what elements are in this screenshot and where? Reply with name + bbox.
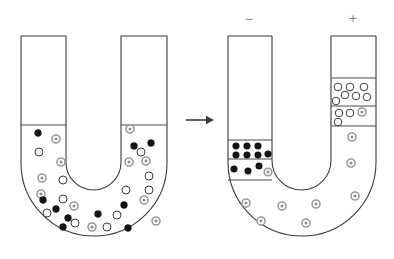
particle-black-dot xyxy=(231,166,238,173)
electrode-label-negative: − xyxy=(245,11,253,27)
particle-white-circle xyxy=(335,109,343,117)
particle-gray xyxy=(264,168,272,176)
particle-gray-core xyxy=(128,127,131,130)
diagram-canvas: −+ xyxy=(0,0,394,259)
particle-white xyxy=(334,118,342,126)
particle-black xyxy=(233,143,240,150)
particle-black-dot xyxy=(35,130,42,137)
particle-white-circle xyxy=(145,172,153,180)
particle-white xyxy=(341,91,349,99)
particle-black xyxy=(256,163,263,170)
particle-gray-core xyxy=(314,202,317,205)
particle-white xyxy=(71,219,79,227)
particle-gray xyxy=(57,158,65,166)
particle-white xyxy=(334,83,342,91)
particle-gray-core xyxy=(267,171,270,174)
particle-gray xyxy=(348,133,356,141)
particle-black-dot xyxy=(233,152,240,159)
particle-gray xyxy=(278,202,286,210)
particle-black-dot xyxy=(244,152,251,159)
process-arrow xyxy=(186,116,214,124)
particle-gray-core xyxy=(127,160,130,163)
particle-gray xyxy=(152,217,160,225)
particle-gray xyxy=(125,158,133,166)
particle-white-circle xyxy=(59,195,67,203)
particle-white xyxy=(122,186,130,194)
particle-gray-core xyxy=(54,137,57,140)
electrophoresis-diagram: −+ xyxy=(0,0,394,259)
particle-black xyxy=(131,143,138,150)
particle-black-dot xyxy=(125,225,132,232)
particle-gray xyxy=(70,202,78,210)
particle-gray xyxy=(302,219,310,227)
particle-black xyxy=(35,130,42,137)
particle-white-circle xyxy=(137,148,145,156)
particle-gray xyxy=(358,108,366,116)
particle-black xyxy=(60,224,67,231)
particle-black xyxy=(245,168,252,175)
particle-white-circle xyxy=(59,176,67,184)
particle-gray xyxy=(257,217,265,225)
particle-white xyxy=(59,195,67,203)
particle-white-circle xyxy=(334,118,342,126)
particle-gray-core xyxy=(59,160,62,163)
particle-black xyxy=(231,166,238,173)
particle-white xyxy=(103,223,111,231)
particle-white xyxy=(137,148,145,156)
particle-gray-core xyxy=(39,192,42,195)
particle-gray xyxy=(140,196,148,204)
particle-gray-core xyxy=(72,204,75,207)
particle-gray-core xyxy=(304,221,307,224)
particle-gray xyxy=(142,157,150,165)
particle-black xyxy=(244,152,251,159)
particle-white xyxy=(363,93,371,101)
arrow-head-icon xyxy=(206,116,214,124)
particle-white-circle xyxy=(334,83,342,91)
particle-white-circle xyxy=(352,92,360,100)
particle-white xyxy=(59,176,67,184)
particle-gray-core xyxy=(280,204,283,207)
particle-gray xyxy=(242,199,250,207)
particle-black xyxy=(65,215,72,222)
electrode-label-positive: + xyxy=(349,10,357,26)
particle-white-circle xyxy=(360,83,368,91)
particle-gray-core xyxy=(40,176,43,179)
particle-black-dot xyxy=(60,224,67,231)
particle-black xyxy=(265,151,272,158)
particle-gray xyxy=(88,223,96,231)
particle-black-dot xyxy=(121,202,128,209)
particle-black-dot xyxy=(265,151,272,158)
particle-white-circle xyxy=(341,91,349,99)
particle-white xyxy=(352,92,360,100)
particle-black xyxy=(255,152,262,159)
particle-white xyxy=(113,211,121,219)
particle-gray xyxy=(52,135,60,143)
particle-black-dot xyxy=(244,143,251,150)
particle-white-circle xyxy=(122,186,130,194)
particle-white xyxy=(145,186,153,194)
particle-black xyxy=(233,152,240,159)
particle-white xyxy=(35,148,43,156)
particle-gray xyxy=(351,192,359,200)
particle-gray-core xyxy=(353,194,356,197)
particle-gray-core xyxy=(244,201,247,204)
particle-black xyxy=(148,140,155,147)
particle-white-circle xyxy=(71,219,79,227)
particle-white-circle xyxy=(103,223,111,231)
left-tube xyxy=(21,36,167,236)
particle-gray-core xyxy=(259,219,262,222)
particle-gray xyxy=(312,200,320,208)
particle-white xyxy=(332,97,340,105)
particle-black-dot xyxy=(40,197,47,204)
particle-black-dot xyxy=(95,211,102,218)
particle-white-circle xyxy=(113,211,121,219)
particle-black xyxy=(244,143,251,150)
particle-black xyxy=(255,143,262,150)
particle-white-circle xyxy=(332,97,340,105)
particle-gray-core xyxy=(154,219,157,222)
particle-white xyxy=(335,109,343,117)
particle-gray-core xyxy=(349,161,352,164)
left-tube-outline xyxy=(21,36,167,236)
particle-gray-core xyxy=(360,110,363,113)
particle-white-circle xyxy=(346,109,354,117)
